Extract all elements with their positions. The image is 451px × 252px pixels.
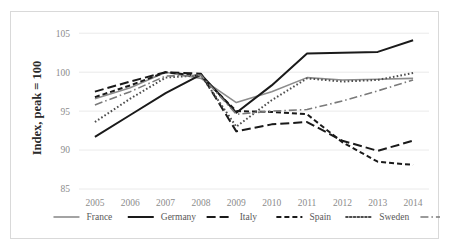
legend-label-france[interactable]: France: [86, 212, 112, 222]
y-tick-label: 105: [56, 29, 71, 39]
legend-label-germany[interactable]: Germany: [161, 212, 197, 222]
y-axis-title: Index, peak = 100: [30, 61, 44, 156]
y-tick-label: 100: [56, 68, 71, 78]
x-tick-label: 2013: [368, 198, 387, 208]
x-tick-label: 2006: [121, 198, 140, 208]
legend-label-spain[interactable]: Spain: [309, 212, 331, 222]
chart-card: 859095100105Index, peak = 10020052006200…: [10, 11, 439, 239]
x-tick-label: 2012: [333, 198, 352, 208]
legend-label-italy[interactable]: Italy: [240, 212, 258, 222]
series-line-germany: [95, 40, 413, 137]
line-chart: 859095100105Index, peak = 10020052006200…: [11, 12, 440, 240]
y-tick-label: 85: [61, 184, 71, 194]
x-tick-label: 2010: [262, 198, 281, 208]
chart-plot-area: 859095100105Index, peak = 10020052006200…: [11, 12, 440, 240]
x-tick-label: 2014: [404, 198, 423, 208]
x-tick-label: 2009: [227, 198, 246, 208]
x-tick-label: 2008: [191, 198, 210, 208]
legend-label-sweden[interactable]: Sweden: [379, 212, 409, 222]
y-tick-label: 95: [61, 107, 71, 117]
y-tick-label: 90: [61, 145, 71, 155]
x-tick-label: 2007: [156, 198, 175, 208]
x-tick-label: 2005: [85, 198, 104, 208]
x-tick-label: 2011: [298, 198, 317, 208]
